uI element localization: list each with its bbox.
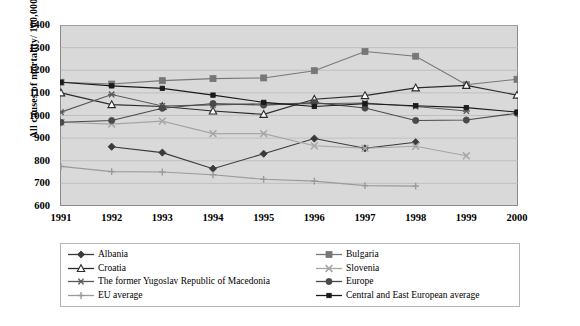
data-point-diamond — [159, 149, 166, 156]
data-point-plus — [108, 168, 115, 175]
data-point-diamond — [209, 165, 216, 172]
data-point-plus — [260, 176, 267, 183]
data-point-square — [362, 48, 368, 54]
chart-root: All causes of mortality/ 100,000 6007008… — [0, 0, 580, 326]
data-point-circle — [210, 100, 216, 106]
legend-item[interactable]: EU average — [67, 290, 315, 301]
data-point-asterisk — [108, 92, 115, 98]
data-point-square — [261, 75, 267, 81]
data-point-small-square — [60, 80, 63, 84]
data-point-square — [210, 76, 216, 82]
series-bulgaria — [60, 48, 518, 87]
y-tick-label: 800 — [16, 155, 50, 166]
legend-key-square-icon — [315, 249, 343, 260]
legend-key-diamond-icon — [67, 249, 95, 260]
series-europe — [60, 100, 518, 126]
x-tick-label: 1997 — [342, 212, 388, 223]
series-canvas — [60, 25, 518, 206]
y-tick-label: 1200 — [16, 64, 50, 75]
legend-label: Albania — [98, 249, 128, 260]
data-point-square — [514, 76, 518, 82]
legend-item[interactable]: Albania — [67, 249, 315, 260]
legend-item[interactable]: Croatia — [67, 263, 315, 274]
data-point-plus — [60, 163, 64, 170]
data-point-small-square — [109, 84, 113, 88]
y-tick-label: 1000 — [16, 110, 50, 121]
y-tick-label: 1400 — [16, 19, 50, 30]
legend-key-triangle-open-icon — [67, 263, 95, 274]
legend-key-circle-icon — [315, 276, 343, 287]
legend-label: Europe — [346, 276, 373, 287]
y-tick-label: 1100 — [16, 87, 50, 98]
legend-key-small-square-icon — [315, 290, 343, 301]
data-point-square — [413, 53, 419, 59]
data-point-small-square — [312, 104, 316, 108]
data-point-square — [159, 78, 165, 84]
series-albania — [108, 135, 419, 172]
data-point-plus — [210, 171, 217, 178]
legend-label: Bulgaria — [346, 249, 379, 260]
data-point-diamond — [77, 251, 84, 258]
data-point-small-square — [261, 100, 265, 104]
data-point-diamond — [108, 143, 115, 150]
x-tick-label: 1995 — [241, 212, 287, 223]
legend-label: EU average — [98, 290, 143, 301]
x-tick-label: 1994 — [190, 212, 236, 223]
y-tick-label: 700 — [16, 177, 50, 188]
x-tick-label: 1992 — [89, 212, 135, 223]
data-point-small-square — [363, 102, 367, 106]
data-point-circle — [109, 117, 115, 123]
legend-key-asterisk-icon — [67, 276, 95, 287]
data-point-small-square — [515, 110, 518, 114]
data-point-small-square — [160, 86, 164, 90]
legend-key-x-icon — [315, 263, 343, 274]
legend-label: Croatia — [98, 263, 126, 274]
x-tick-label: 1998 — [393, 212, 439, 223]
x-tick-label: 1999 — [443, 212, 489, 223]
data-point-small-square — [413, 104, 417, 108]
data-point-small-square — [211, 93, 215, 97]
data-point-asterisk — [78, 279, 85, 285]
x-tick-label: 1991 — [38, 212, 84, 223]
legend-item[interactable]: Europe — [315, 276, 513, 287]
series-eu-average — [60, 163, 419, 189]
chart-legend: AlbaniaBulgariaCroatiaSloveniaThe former… — [60, 243, 520, 307]
legend-key-plus-icon — [67, 290, 95, 301]
legend-item[interactable]: Bulgaria — [315, 249, 513, 260]
x-tick-label: 1996 — [291, 212, 337, 223]
data-point-plus — [159, 169, 166, 176]
data-point-diamond — [260, 150, 267, 157]
data-point-small-square — [327, 293, 331, 297]
plot-area — [60, 25, 518, 206]
data-point-circle — [413, 117, 419, 123]
data-point-circle — [159, 105, 165, 111]
data-point-square — [311, 68, 317, 74]
x-tick-label: 1993 — [139, 212, 185, 223]
y-tick-label: 1300 — [16, 42, 50, 53]
legend-label: Central and East European average — [346, 290, 479, 301]
legend-item[interactable]: Central and East European average — [315, 290, 513, 301]
data-point-diamond — [311, 135, 318, 142]
data-point-circle — [326, 279, 332, 285]
legend-label: The former Yugoslav Republic of Macedoni… — [98, 276, 270, 287]
data-point-circle — [60, 119, 64, 125]
legend-item[interactable]: The former Yugoslav Republic of Macedoni… — [67, 276, 315, 287]
data-point-small-square — [464, 105, 468, 109]
data-point-circle — [463, 117, 469, 123]
data-point-plus — [78, 292, 85, 299]
x-tick-label: 2000 — [494, 212, 540, 223]
data-point-asterisk — [60, 109, 65, 115]
data-point-square — [326, 252, 332, 258]
legend-item[interactable]: Slovenia — [315, 263, 513, 274]
y-tick-label: 900 — [16, 132, 50, 143]
y-tick-label: 600 — [16, 200, 50, 211]
legend-label: Slovenia — [346, 263, 379, 274]
